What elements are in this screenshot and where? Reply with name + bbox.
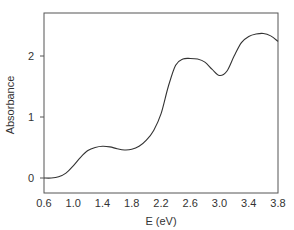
x-tick-label: 2.2: [153, 197, 168, 209]
plot-frame: [44, 13, 278, 193]
y-tick-label: 0: [28, 172, 34, 184]
y-tick-label: 1: [28, 111, 34, 123]
y-axis-label: Absorbance: [4, 76, 16, 135]
x-tick-label: 3.4: [241, 197, 256, 209]
absorbance-chart: 012 0.61.01.41.82.22.63.03.43.8 E (eV) A…: [0, 0, 294, 230]
x-axis-label: E (eV): [145, 215, 176, 227]
y-axis-ticks: 012: [28, 50, 44, 184]
x-tick-label: 3.8: [270, 197, 285, 209]
x-tick-label: 2.6: [183, 197, 198, 209]
x-axis-ticks: 0.61.01.41.82.22.63.03.43.8: [36, 197, 285, 209]
x-tick-label: 1.4: [95, 197, 110, 209]
absorbance-curve: [44, 33, 278, 178]
y-tick-label: 2: [28, 50, 34, 62]
x-tick-label: 3.0: [212, 197, 227, 209]
x-tick-label: 0.6: [36, 197, 51, 209]
x-tick-label: 1.8: [124, 197, 139, 209]
x-tick-label: 1.0: [66, 197, 81, 209]
